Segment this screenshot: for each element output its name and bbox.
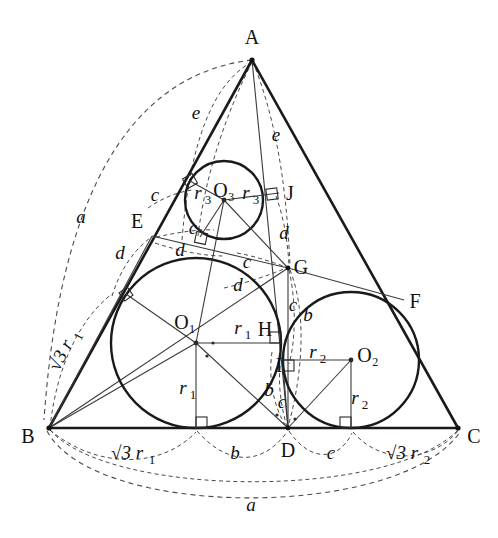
- angle-dot-d2: [293, 417, 296, 420]
- label-d-under-g: d: [233, 274, 243, 295]
- label-c-upper-left: c: [151, 184, 160, 205]
- label-base-c: c: [327, 442, 336, 463]
- dot-D: [286, 426, 291, 431]
- circle-center-labels: O₁ O₂ O₃: [174, 179, 378, 366]
- label-center-O1: O₁: [174, 311, 195, 333]
- label-e-left: e: [192, 102, 200, 123]
- segment-b-to-g: [49, 268, 288, 428]
- angle-dot-d1: [275, 413, 278, 416]
- dot-G: [286, 266, 291, 271]
- label-point-E: E: [131, 210, 143, 232]
- label-base-sqrt3-r1: √3 r 1: [111, 442, 155, 467]
- label-d-mid: d: [175, 239, 185, 260]
- label-point-J: J: [286, 182, 294, 204]
- geometry-figure: A B C D E F G H I J O₁ O₂ O₃ a a e e c c…: [0, 0, 498, 538]
- arc-base-b: [197, 431, 287, 457]
- label-point-B: B: [21, 425, 34, 447]
- center-dot-o2: [349, 358, 354, 363]
- label-r1-h-sub: 1: [245, 327, 252, 342]
- label-r1-v-base: r: [179, 377, 187, 398]
- label-r3-right: r 3: [242, 182, 259, 207]
- label-r2-l-sub: 2: [362, 397, 369, 412]
- edge-rotated-labels: √3 r 1: [43, 325, 86, 376]
- circle-o3-group: [185, 161, 288, 268]
- segment-e-to-g: [152, 236, 288, 268]
- arc-e-to-vertex: [198, 62, 252, 236]
- label-b-near-o2: b: [303, 304, 313, 325]
- label-point-A: A: [245, 26, 260, 48]
- dot-C: [455, 425, 460, 430]
- label-r3-r-base: r: [242, 182, 250, 203]
- label-point-D: D: [281, 439, 295, 461]
- label-d-left: d: [115, 242, 125, 263]
- label-r2-u-sub: 2: [320, 351, 327, 366]
- label-base-b: b: [230, 442, 240, 463]
- label-c-near-i: c: [278, 391, 287, 412]
- label-point-H: H: [258, 318, 272, 340]
- label-r1-vertical: r 1: [179, 377, 196, 402]
- label-center-O3: O₃: [213, 179, 234, 201]
- arc-c-below-g: [289, 270, 294, 364]
- label-r3-l-sub: 3: [205, 192, 212, 207]
- label-r2-lower: r 2: [351, 387, 368, 412]
- label-base-sqrt3r2-base: √3 r: [386, 442, 419, 463]
- label-base-sqrt3r2-sub: 2: [424, 452, 431, 467]
- label-r1-horizontal: r 1: [234, 317, 251, 342]
- label-r1-v-sub: 1: [190, 387, 197, 402]
- label-r3-l-base: r: [194, 182, 202, 203]
- label-c-below-g: c: [289, 294, 298, 315]
- dot-A: [249, 57, 254, 62]
- label-r1-h-base: r: [234, 317, 242, 338]
- label-r2-l-base: r: [351, 387, 359, 408]
- label-e-right: e: [272, 124, 280, 145]
- label-base-sqrt3-r2: √3 r 2: [386, 442, 430, 467]
- label-base-sqrt3r1-base: √3 r: [111, 442, 144, 463]
- label-point-C: C: [467, 425, 480, 447]
- label-a-bottom: a: [246, 494, 256, 515]
- label-center-O2: O₂: [357, 344, 378, 366]
- label-a-left: a: [76, 206, 86, 227]
- label-r2-u-base: r: [309, 341, 317, 362]
- angle-dot-o1a: [205, 354, 208, 357]
- dot-B: [46, 425, 51, 430]
- triangle-outline: [49, 60, 458, 428]
- label-point-F: F: [409, 290, 420, 312]
- label-b-near-i: b: [264, 379, 274, 400]
- arc-base-c: [289, 431, 352, 455]
- label-point-G: G: [294, 256, 308, 278]
- triangle-abc: [49, 60, 458, 428]
- angle-dot-o1b: [211, 341, 214, 344]
- label-edge-sqrt3r1-sub: 1: [70, 330, 86, 343]
- label-r3-left: r 3: [194, 182, 211, 207]
- label-base-sqrt3r1-sub: 1: [149, 452, 156, 467]
- segment-d-to-o2: [288, 360, 351, 428]
- label-r2-upper: r 2: [309, 341, 326, 366]
- point-dots: [46, 57, 460, 430]
- label-c-near-g: c: [243, 251, 252, 272]
- segment-b-to-e: [49, 236, 152, 428]
- label-r3-r-sub: 3: [253, 192, 260, 207]
- label-edge-sqrt3-r1: √3 r 1: [43, 325, 86, 376]
- arc-e-left: [182, 62, 252, 240]
- label-d-right: d: [279, 222, 289, 243]
- center-dot-o1: [194, 341, 199, 346]
- label-c-mid-left: c: [189, 217, 198, 238]
- label-point-I: I: [276, 354, 283, 376]
- point-labels: A B C D E F G H I J: [21, 26, 480, 461]
